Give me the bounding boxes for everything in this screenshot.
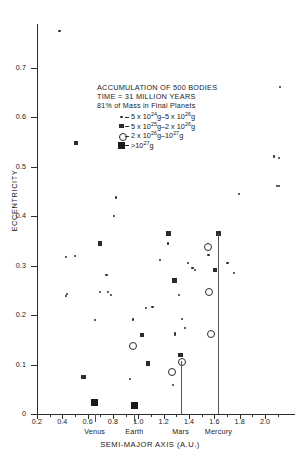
data-point bbox=[98, 241, 102, 245]
data-point bbox=[132, 318, 134, 320]
planet-label-mercury: Mercury bbox=[193, 427, 243, 436]
legend-dash bbox=[125, 145, 129, 146]
data-point bbox=[178, 358, 186, 366]
legend-glyph-medium-dot bbox=[119, 124, 123, 128]
data-point bbox=[107, 291, 109, 293]
data-point bbox=[74, 255, 76, 257]
legend-label: 5 x 1025g–2 x 1026g bbox=[131, 122, 195, 132]
data-point bbox=[226, 262, 228, 264]
planet-dropline-mars bbox=[181, 361, 182, 414]
y-tick-label: 0.1 bbox=[0, 361, 26, 369]
data-point bbox=[140, 333, 144, 337]
x-tick-minor bbox=[151, 414, 152, 417]
data-point bbox=[151, 306, 153, 308]
x-tick-minor bbox=[75, 414, 76, 417]
data-point bbox=[81, 375, 85, 379]
x-tick-label: 1.0 bbox=[125, 417, 151, 426]
data-point bbox=[278, 157, 280, 159]
data-point bbox=[74, 141, 78, 145]
legend-dash bbox=[125, 126, 129, 127]
y-tick bbox=[31, 68, 37, 69]
data-point bbox=[172, 278, 176, 282]
data-point bbox=[159, 259, 161, 261]
data-point bbox=[105, 274, 107, 276]
data-point bbox=[99, 291, 101, 293]
y-tick-label: 0.3 bbox=[0, 262, 26, 270]
x-tick-minor bbox=[252, 414, 253, 417]
legend: 5 x 1024g–5 x 1026g5 x 1025g–2 x 1026g2 … bbox=[118, 112, 195, 150]
data-point bbox=[238, 193, 240, 195]
data-point bbox=[207, 330, 215, 338]
data-point bbox=[204, 243, 212, 251]
annotation-time: TIME = 31 MILLION YEARS bbox=[97, 92, 217, 101]
data-point bbox=[113, 215, 115, 217]
data-point bbox=[213, 268, 217, 272]
y-axis-title: ECCENTRICITY bbox=[10, 161, 19, 241]
x-tick-minor bbox=[100, 414, 101, 417]
data-point bbox=[191, 267, 193, 269]
plot-area: 00.10.20.30.40.50.60.70.20.40.60.81.01.2… bbox=[0, 0, 300, 465]
legend-label: >1027g bbox=[131, 141, 153, 151]
data-point bbox=[172, 384, 174, 386]
data-point bbox=[233, 272, 235, 274]
data-point bbox=[181, 318, 183, 320]
y-tick bbox=[31, 266, 37, 267]
y-tick bbox=[31, 315, 37, 316]
data-point bbox=[168, 368, 176, 376]
data-point bbox=[207, 254, 209, 256]
x-tick-minor bbox=[227, 414, 228, 417]
x-tick-label: 0.2 bbox=[24, 417, 50, 426]
data-point bbox=[115, 196, 117, 198]
data-point bbox=[273, 155, 275, 157]
data-point bbox=[131, 402, 138, 409]
x-tick-label: 2.0 bbox=[252, 417, 278, 426]
annotation-mass-fraction: 81% of Mass in Final Planets bbox=[97, 102, 217, 111]
legend-label: 2 x 1026g–1027g bbox=[131, 131, 183, 141]
data-point bbox=[129, 378, 131, 380]
legend-item: >1027g bbox=[118, 141, 195, 151]
x-axis-title: SEMI-MAJOR AXIS (A.U.) bbox=[0, 440, 300, 449]
data-point bbox=[146, 361, 150, 365]
data-point bbox=[178, 294, 180, 296]
data-point bbox=[278, 185, 280, 187]
x-tick-label: 1.6 bbox=[201, 417, 227, 426]
data-point bbox=[58, 30, 60, 32]
data-point bbox=[194, 269, 196, 271]
planet-dropline-venus bbox=[95, 414, 96, 422]
annotation-title: ACCUMULATION OF 500 BODIES bbox=[97, 83, 217, 92]
x-tick-label: 1.2 bbox=[151, 417, 177, 426]
y-tick bbox=[31, 167, 37, 168]
figure-scatter-accretion: 00.10.20.30.40.50.60.70.20.40.60.81.01.2… bbox=[0, 0, 300, 465]
x-tick-label: 1.4 bbox=[176, 417, 202, 426]
x-tick-label: 1.8 bbox=[227, 417, 253, 426]
data-point bbox=[66, 293, 68, 295]
data-point bbox=[187, 262, 189, 264]
x-tick-label: 0.6 bbox=[75, 417, 101, 426]
annotation-block: ACCUMULATION OF 500 BODIES TIME = 31 MIL… bbox=[97, 83, 217, 111]
x-tick-label: 0.4 bbox=[49, 417, 75, 426]
data-point bbox=[279, 86, 281, 88]
legend-glyph-open-circle bbox=[119, 133, 127, 141]
data-point bbox=[110, 294, 112, 296]
x-tick-minor bbox=[176, 414, 177, 417]
x-tick-minor bbox=[202, 414, 203, 417]
x-tick-label: 0.8 bbox=[100, 417, 126, 426]
legend-glyph-small-dot bbox=[120, 116, 122, 118]
y-axis-line bbox=[37, 24, 38, 414]
data-point bbox=[205, 288, 213, 296]
data-point bbox=[178, 353, 182, 357]
y-tick bbox=[31, 365, 37, 366]
y-tick bbox=[31, 216, 37, 217]
planet-dropline-mercury bbox=[218, 234, 219, 414]
data-point bbox=[184, 327, 186, 329]
x-tick-minor bbox=[50, 414, 51, 417]
y-tick-label: 0.2 bbox=[0, 311, 26, 319]
planet-dropline-earth bbox=[134, 414, 135, 422]
data-point bbox=[167, 242, 169, 244]
y-tick-label: 0 bbox=[0, 410, 26, 418]
legend-dash bbox=[125, 117, 129, 118]
y-tick bbox=[31, 117, 37, 118]
data-point bbox=[166, 231, 170, 235]
planet-label-earth: Earth bbox=[109, 427, 159, 436]
legend-dash bbox=[125, 136, 129, 137]
